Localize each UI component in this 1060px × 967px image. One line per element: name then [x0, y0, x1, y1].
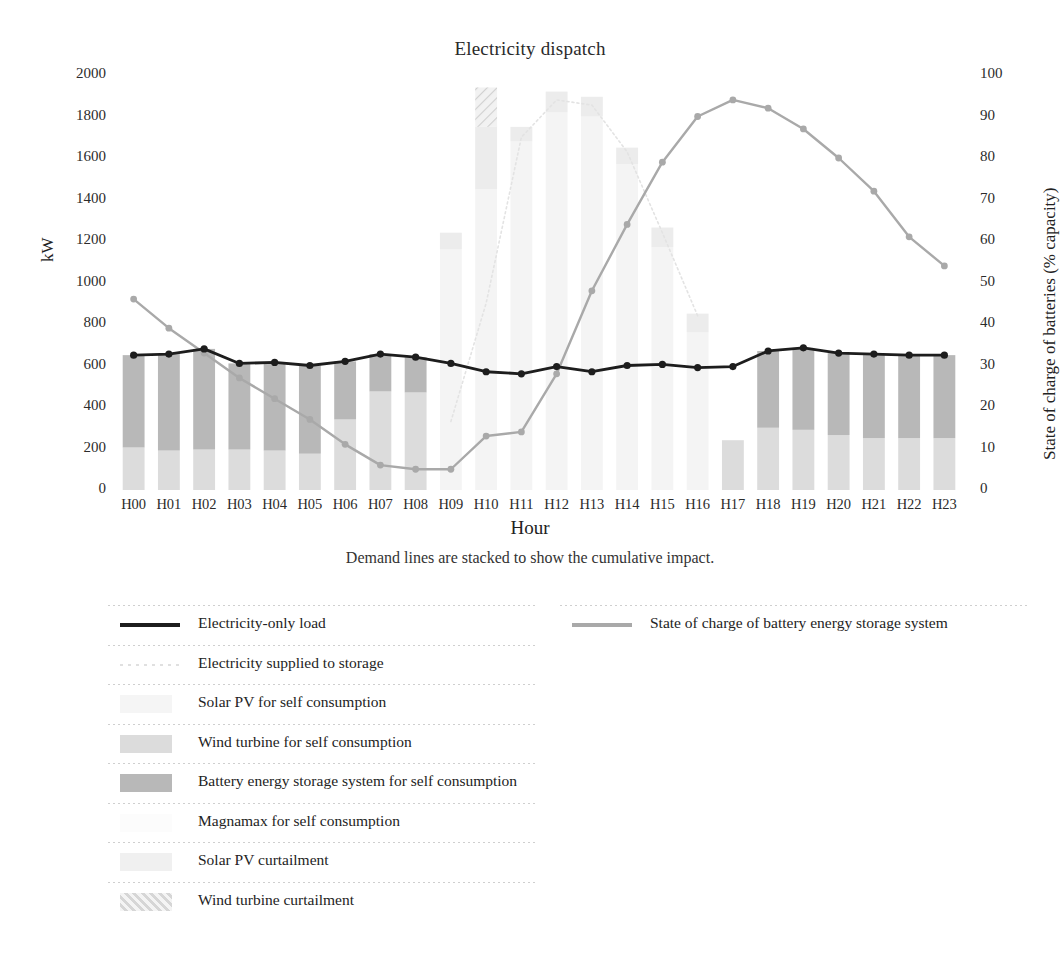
legend-swatch-box-wind-curtail-hatch [120, 893, 180, 911]
bar-segment [193, 450, 215, 490]
legend-label: Wind turbine curtailment [198, 891, 354, 909]
series-marker [306, 362, 313, 369]
chart-legend: Electricity-only loadElectricity supplie… [0, 605, 1060, 935]
series-marker [765, 105, 772, 112]
series-marker [130, 296, 137, 303]
bar-segment [369, 391, 391, 490]
legend-swatch-box-solar-curtail [120, 853, 180, 871]
bar-segment [405, 357, 427, 392]
series-marker [835, 155, 842, 162]
legend-item-right-0[interactable]: State of charge of battery energy storag… [560, 605, 1030, 645]
series-marker [447, 466, 454, 473]
legend-item-left-6[interactable]: Solar PV curtailment [108, 842, 538, 882]
legend-label: Electricity supplied to storage [198, 654, 384, 672]
x-axis-title: Hour [0, 517, 1060, 539]
series-marker [483, 368, 490, 375]
bar-segment [158, 354, 180, 450]
series-marker [729, 97, 736, 104]
series-marker [447, 360, 454, 367]
legend-label: Battery energy storage system for self c… [198, 772, 517, 790]
bar-segment [369, 354, 391, 391]
bar-segment [863, 354, 885, 438]
legend-separator [108, 724, 538, 725]
bar-segment [898, 355, 920, 438]
legend-item-left-3[interactable]: Wind turbine for self consumption [108, 724, 538, 764]
lines-layer [130, 97, 948, 473]
bar-segment [757, 428, 779, 490]
bars-layer [123, 87, 956, 490]
series-line [134, 348, 945, 374]
bar-segment [264, 362, 286, 450]
series-marker [588, 287, 595, 294]
legend-separator [108, 882, 538, 883]
series-marker [130, 352, 137, 359]
series-marker [236, 375, 243, 382]
series-marker [694, 364, 701, 371]
legend-swatch-box-solar [120, 695, 180, 713]
legend-item-left-5[interactable]: Magnamax for self consumption [108, 803, 538, 843]
bar-segment [228, 450, 250, 490]
series-marker [271, 359, 278, 366]
series-marker [659, 361, 666, 368]
series-marker [906, 352, 913, 359]
legend-label: Solar PV for self consumption [198, 693, 386, 711]
bar-segment [581, 97, 603, 117]
series-marker [412, 354, 419, 361]
legend-item-left-0[interactable]: Electricity-only load [108, 605, 538, 645]
legend-item-left-7[interactable]: Wind turbine curtailment [108, 882, 538, 922]
series-marker [165, 325, 172, 332]
series-marker [659, 159, 666, 166]
series-marker [941, 352, 948, 359]
series-marker [835, 349, 842, 356]
legend-swatch-line-solid-gray [572, 616, 632, 634]
bar-segment [299, 366, 321, 454]
legend-item-left-1[interactable]: Electricity supplied to storage [108, 645, 538, 685]
bar-segment [898, 438, 920, 490]
series-marker [201, 345, 208, 352]
legend-label: Wind turbine for self consumption [198, 733, 412, 751]
series-marker [906, 233, 913, 240]
bar-segment [722, 440, 744, 490]
legend-item-left-2[interactable]: Solar PV for self consumption [108, 684, 538, 724]
bar-segment [651, 228, 673, 248]
legend-separator [108, 842, 538, 843]
legend-item-left-4[interactable]: Battery energy storage system for self c… [108, 763, 538, 803]
series-marker [870, 188, 877, 195]
legend-swatch-line-solid-dark [120, 616, 180, 634]
bar-segment [687, 332, 709, 490]
legend-column-right: State of charge of battery energy storag… [560, 605, 1030, 645]
series-marker [165, 350, 172, 357]
bar-segment [792, 430, 814, 490]
bar-segment [546, 92, 568, 113]
legend-separator [108, 763, 538, 764]
bar-segment [264, 451, 286, 490]
series-marker [553, 363, 560, 370]
series-marker [377, 462, 384, 469]
legend-label: Magnamax for self consumption [198, 812, 400, 830]
chart-subtitle: Demand lines are stacked to show the cum… [0, 549, 1060, 567]
bar-segment [334, 361, 356, 419]
series-marker [518, 370, 525, 377]
bar-segment [440, 249, 462, 490]
bar-segment [828, 435, 850, 490]
legend-column-left: Electricity-only loadElectricity supplie… [108, 605, 538, 921]
bar-segment [757, 351, 779, 428]
legend-separator [108, 645, 538, 646]
bar-segment [475, 87, 497, 126]
series-marker [342, 441, 349, 448]
bar-segment [510, 141, 532, 490]
bar-segment [405, 392, 427, 490]
series-marker [941, 263, 948, 270]
series-marker [306, 416, 313, 423]
bar-segment [828, 353, 850, 435]
bar-segment [792, 348, 814, 430]
series-marker [483, 433, 490, 440]
bar-segment [193, 349, 215, 450]
bar-segment [475, 127, 497, 189]
series-marker [342, 358, 349, 365]
legend-swatch-box-wind [120, 735, 180, 753]
bar-segment [863, 438, 885, 490]
legend-swatch-box-bess [120, 774, 180, 792]
series-marker [624, 362, 631, 369]
legend-label: Solar PV curtailment [198, 851, 329, 869]
